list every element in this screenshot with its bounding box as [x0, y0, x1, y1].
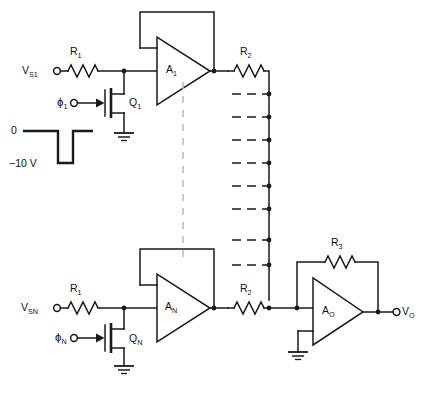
bus-tap-node-2 [267, 115, 272, 120]
vs1-terminal [54, 68, 61, 75]
resistor-r1-bottom-symbol [68, 302, 98, 314]
bus-tap-node-6 [267, 207, 272, 212]
circuit-diagram: VS1 R1 ϕ1 Q1 A1 R2 0 −10 V VSN R1 ϕN QN … [0, 0, 428, 395]
resistor-r3-symbol [325, 256, 355, 268]
bus-tap-rows [232, 92, 271, 268]
r1-bottom-label: R1 [70, 283, 82, 294]
vo-label: VO [402, 306, 415, 317]
phi1-label: ϕ1 [57, 97, 67, 109]
qn-label: QN [129, 333, 142, 344]
bus-tap-node-4 [267, 161, 272, 166]
bus-tap-node-7 [267, 238, 272, 243]
bus-tap-node-8 [267, 263, 272, 268]
r3-feedback-right-leg [355, 262, 378, 312]
waveform-high-label: 0 [11, 125, 17, 136]
vsn-terminal [54, 305, 61, 312]
r3-label: R3 [331, 237, 343, 248]
vo-terminal [393, 309, 400, 316]
bus-tap-node-1 [267, 92, 272, 97]
q1-label: Q1 [129, 97, 141, 108]
r1-top-label: R1 [70, 46, 82, 57]
resistor-r2-bottom-symbol [234, 302, 264, 314]
phin-label: ϕN [55, 332, 67, 344]
vsn-label: VSN [21, 302, 38, 313]
bus-tap-node-5 [267, 184, 272, 189]
a1-label: A1 [166, 64, 177, 75]
phi1-terminal [71, 100, 78, 107]
bus-tap-node-3 [267, 138, 272, 143]
a0-label: AO [322, 305, 335, 316]
waveform-low-label: −10 V [9, 158, 37, 169]
phin-arrowhead [96, 334, 105, 343]
resistor-r2-top-symbol [234, 65, 264, 77]
resistor-r1-top-symbol [68, 65, 98, 77]
vs1-label: VS1 [22, 65, 38, 76]
an-label: AN [165, 301, 177, 312]
opamp-a1-body [157, 37, 210, 105]
opamp-a0-body [313, 278, 363, 345]
r2-top-label: R2 [240, 46, 252, 57]
phin-terminal [71, 335, 78, 342]
r2-bottom-label: R2 [240, 283, 252, 294]
phi1-arrowhead [96, 99, 105, 108]
